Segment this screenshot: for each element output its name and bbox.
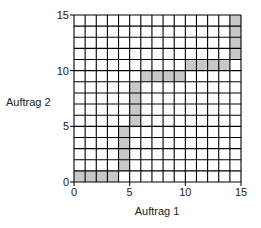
y-tick-label: 5 [63, 120, 69, 132]
shaded-blocks [74, 15, 241, 182]
y-axis-label: Auftrag 2 [6, 96, 51, 108]
y-tick-label: 10 [57, 65, 69, 77]
y-tick-label: 15 [57, 9, 69, 21]
x-tick-label: 0 [71, 186, 77, 198]
x-tick-label: 15 [235, 186, 247, 198]
x-tick-label: 10 [179, 186, 191, 198]
x-tick-label: 5 [127, 186, 133, 198]
x-axis-label: Auftrag 1 [135, 205, 180, 217]
grid [74, 15, 241, 182]
chart: 051015051015 Auftrag 1 Auftrag 2 [0, 0, 261, 228]
y-tick-label: 0 [63, 176, 69, 188]
